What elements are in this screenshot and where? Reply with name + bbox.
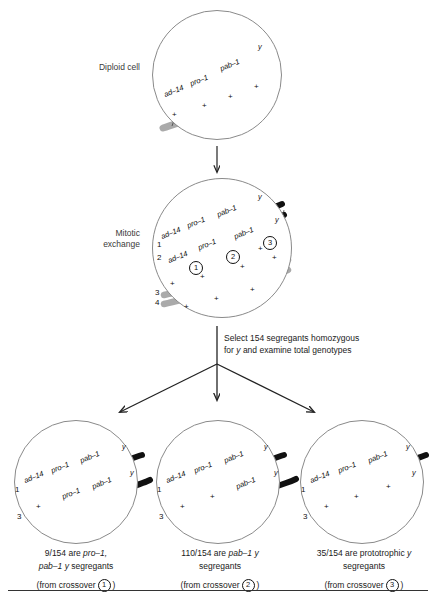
result2-gene-label-y: y [264,442,268,451]
mitotic-plus-label-f: + [184,302,189,311]
diploid-gene-label-y: y [258,42,262,51]
mitotic-crossover-marker-1: 1 [189,261,203,275]
mitotic-plus-label-c: + [200,272,205,281]
caption-2-line1: 110/154 are pab–1 y [150,547,290,560]
result2-gene-label-y-lower: y [274,468,278,477]
mitotic-gene-label-y-top: y [258,192,262,201]
mitotic-plus-label-a: + [258,244,263,253]
mitotic-strand-number-2: 2 [157,253,161,262]
caption-3-line1: 35/154 are prototrophic y [294,547,434,560]
mitotic-plus-label-g: + [214,294,219,303]
result1-gene-label-y-lower: y [130,468,134,477]
result3-gene-label-y: y [406,442,410,451]
result3-plus-label-1: + [324,502,329,511]
caption-result-1: 9/154 are pro–1, pab–1 y segregants (fro… [6,547,146,592]
mitotic-gene-label-y-bottom: y [275,215,279,224]
result3-plus-label-2: + [354,492,359,501]
result1-strand-number-1: 1 [15,485,19,494]
caption-1-line2: pab–1 y segregants [6,560,146,573]
diploid-plus-label-3: + [228,92,233,101]
stage-label-mitotic-exchange: Mitotic exchange [48,228,140,250]
caption-result-2: 110/154 are pab–1 y segregants (from cro… [150,547,290,592]
result1-gene-label-y: y [122,442,126,451]
result2-strand-number-3: 3 [159,512,163,521]
result3-strand-number-3: 3 [303,512,307,521]
bottom-divider-rule [8,590,428,591]
caption-2-line2: segregants [150,560,290,573]
diploid-plus-label-2: + [202,101,207,110]
select-note-line2-post: and examine total genotypes [241,345,352,355]
result1-plus-label-1: + [36,502,41,511]
diploid-plus-label-1: + [172,110,177,119]
result2-plus-label-1: + [180,502,185,511]
mitotic-strand-number-3: 3 [155,288,159,297]
caption-1-line2-italic: pab–1 y [39,561,69,571]
mitotic-plus-label-d: + [240,262,245,271]
caption-1-line1-italic: pro–1, [83,548,107,558]
select-segregants-note: Select 154 segregants homozygous for y a… [224,333,424,356]
diploid-plus-label-4: + [254,82,259,91]
mitotic-strand-number-4: 4 [155,298,159,307]
caption-3-line1-pre: 35/154 are prototrophic [317,548,407,558]
diploid-cell-circle [152,10,282,140]
caption-1-line1: 9/154 are pro–1, [6,547,146,560]
select-note-line1: Select 154 segregants homozygous [224,333,359,343]
result2-strand-number-1: 1 [157,485,161,494]
mitotic-crossover-marker-3: 3 [263,236,277,250]
mitotic-strand-number-1: 1 [157,240,161,249]
mitotic-crossover-marker-2: 2 [226,250,240,264]
mitotic-plus-label-h: + [250,285,255,294]
caption-result-3: 35/154 are prototrophic y segregants (fr… [294,547,434,592]
result3-gene-label-y-lower: y [412,468,416,477]
caption-1-line2-post: segregants [69,561,113,571]
result3-strand-number-1: 1 [301,485,305,494]
caption-3-line2: segregants [294,560,434,573]
result2-plus-label-2: + [210,492,215,501]
caption-1-line1-pre: 9/154 are [45,548,83,558]
result1-strand-number-3: 3 [17,512,21,521]
stage-label-diploid-cell: Diploid cell [48,62,140,73]
genetics-figure: Diploid cell Mitotic exchange ad–14 pro–… [0,0,436,596]
mitotic-plus-label-b: + [170,279,175,288]
select-note-line2-pre: for [224,345,236,355]
caption-3-line1-italic: y [407,548,411,558]
mitotic-plus-label-e: + [272,253,277,262]
caption-2-line1-pre: 110/154 are [181,548,228,558]
result3-plus-label-3: + [386,482,391,491]
caption-2-line1-italic: pab–1 y [228,548,258,558]
